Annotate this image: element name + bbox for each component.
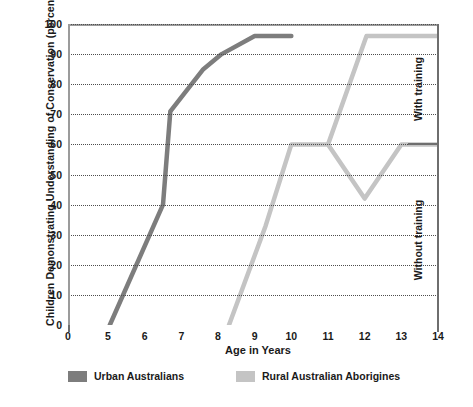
x-tick-label-0: 0 xyxy=(55,330,81,342)
gridline-90 xyxy=(68,54,438,55)
x-tick-label-11: 11 xyxy=(315,330,341,342)
x-tick-label-5: 5 xyxy=(95,330,121,342)
legend-swatch-icon xyxy=(236,371,255,382)
x-tick-label-9: 9 xyxy=(242,330,268,342)
legend-label: Urban Australians xyxy=(94,370,184,382)
y-tick-label-100: 100 xyxy=(32,18,62,30)
chart-legend: Urban AustraliansRural Australian Aborig… xyxy=(68,370,468,390)
series-line-urban-australians xyxy=(110,36,292,325)
gridline-100 xyxy=(68,24,438,25)
y-tick-label-40: 40 xyxy=(32,199,62,211)
y-tick-label-60: 60 xyxy=(32,138,62,150)
y-tick-label-10: 10 xyxy=(32,289,62,301)
x-tick-label-14: 14 xyxy=(425,330,451,342)
gridline-80 xyxy=(68,84,438,85)
y-axis-line xyxy=(68,24,70,332)
x-axis-title: Age in Years xyxy=(68,344,448,356)
x-tick-label-13: 13 xyxy=(388,330,414,342)
y-tick-label-30: 30 xyxy=(32,229,62,241)
y-tick-label-70: 70 xyxy=(32,108,62,120)
x-tick-label-8: 8 xyxy=(205,330,231,342)
x-tick-label-7: 7 xyxy=(168,330,194,342)
gridline-20 xyxy=(68,265,438,266)
gridline-30 xyxy=(68,235,438,236)
legend-entry: Urban Australians xyxy=(68,370,184,382)
y-tick-label-90: 90 xyxy=(32,48,62,60)
legend-entry: Rural Australian Aborigines xyxy=(236,370,400,382)
y-axis-tick-labels: 1009080706050403020100 xyxy=(30,24,62,325)
y-tick-label-50: 50 xyxy=(32,169,62,181)
legend-swatch-icon xyxy=(68,371,87,382)
gridline-70 xyxy=(68,114,438,115)
x-tick-label-10: 10 xyxy=(278,330,304,342)
annotation-without-training: Without training xyxy=(412,180,424,300)
y-tick-label-20: 20 xyxy=(32,259,62,271)
gridline-10 xyxy=(68,295,438,296)
right-axis-line xyxy=(437,24,439,332)
conservation-line-chart: Children Demonstrating Understanding of … xyxy=(0,0,473,407)
gridline-60 xyxy=(68,144,438,145)
plot-area xyxy=(68,24,438,325)
y-tick-label-80: 80 xyxy=(32,78,62,90)
gridline-50 xyxy=(68,175,438,176)
legend-label: Rural Australian Aborigines xyxy=(262,370,400,382)
x-tick-label-6: 6 xyxy=(132,330,158,342)
x-tick-label-12: 12 xyxy=(352,330,378,342)
annotation-with-training: With training xyxy=(412,34,424,144)
gridline-40 xyxy=(68,205,438,206)
